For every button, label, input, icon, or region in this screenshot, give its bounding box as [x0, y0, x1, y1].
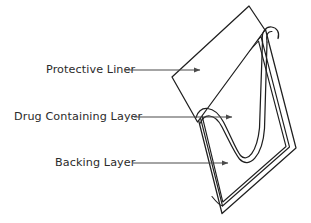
- label-backing-layer: Backing Layer: [55, 156, 136, 169]
- label-protective-liner: Protective Liner: [46, 63, 136, 76]
- label-drug-containing-layer: Drug Containing Layer: [14, 110, 143, 123]
- figure-root: Protective Liner Drug Containing Layer B…: [0, 0, 311, 223]
- patch-layer-diagram: Protective Liner Drug Containing Layer B…: [0, 0, 311, 223]
